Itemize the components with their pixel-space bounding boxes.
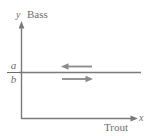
x-axis-arrowhead-icon: [131, 116, 139, 122]
left-flow-arrow: [61, 63, 92, 70]
phase-plane-figure: y Bass x Trout a b: [0, 0, 149, 136]
y-axis-name-label: Bass: [27, 9, 48, 20]
y-axis-symbol-label: y: [16, 10, 20, 20]
fraction-denominator: b: [7, 74, 20, 85]
x-axis-symbol-label: x: [139, 113, 143, 123]
x-axis-name-label: Trout: [104, 122, 128, 133]
figure-canvas: [0, 0, 149, 136]
y-axis-arrowhead-icon: [19, 21, 25, 29]
equilibrium-value-label: a b: [7, 60, 20, 85]
right-flow-arrow: [62, 76, 93, 83]
fraction-numerator: a: [7, 60, 20, 71]
